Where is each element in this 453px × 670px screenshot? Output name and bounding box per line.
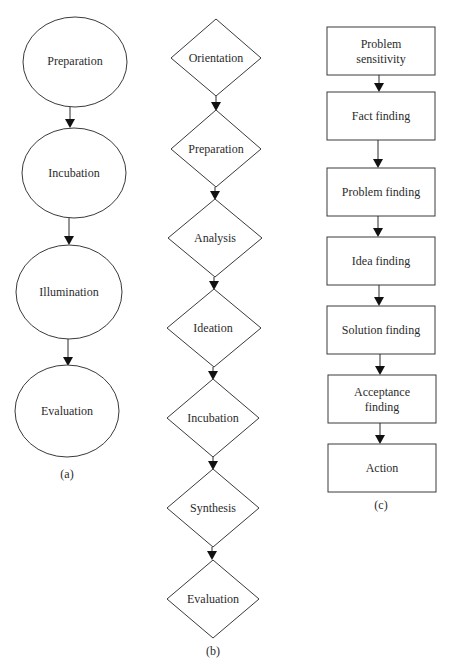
- node-c-problem-finding: Problem finding: [327, 168, 435, 216]
- diagram-c: Problem sensitivity Fact finding Problem…: [327, 27, 436, 512]
- caption-a: (a): [60, 467, 73, 481]
- node-b-analysis: Analysis: [168, 199, 262, 277]
- caption-c: (c): [374, 498, 387, 512]
- arrow-a-1: [65, 107, 75, 128]
- node-b-incubation: Incubation: [167, 379, 259, 457]
- arrow-c-1: [374, 75, 384, 92]
- node-label: Preparation: [188, 142, 243, 156]
- arrow-c-6: [375, 423, 385, 444]
- node-b-orientation: Orientation: [171, 19, 261, 96]
- node-label: Action: [366, 461, 399, 475]
- arrow-c-3: [373, 216, 383, 237]
- arrow-down-icon: [65, 119, 75, 128]
- arrow-b-1: [211, 96, 221, 111]
- node-label: Analysis: [194, 231, 236, 245]
- creative-process-diagrams: Preparation Incubation Illumination Eval…: [0, 0, 453, 670]
- node-c-fact-finding: Fact finding: [327, 92, 435, 140]
- arrow-c-2: [373, 140, 383, 168]
- node-label: Synthesis: [190, 501, 236, 515]
- node-a-incubation: Incubation: [22, 128, 126, 218]
- arrow-down-icon: [64, 236, 74, 245]
- node-label: Preparation: [47, 54, 102, 68]
- node-c-action: Action: [328, 444, 436, 492]
- arrow-down-icon: [373, 228, 383, 237]
- node-label-line1: Problem: [361, 37, 402, 51]
- arrow-down-icon: [374, 297, 384, 306]
- node-label: Incubation: [48, 166, 99, 180]
- node-label-line2: sensitivity: [356, 52, 405, 66]
- node-label: Problem finding: [342, 185, 420, 199]
- node-a-illumination: Illumination: [16, 245, 122, 339]
- node-label: Idea finding: [352, 254, 410, 268]
- node-c-problem-sensitivity: Problem sensitivity: [327, 27, 435, 75]
- arrow-b-2: [210, 187, 220, 200]
- arrow-down-icon: [374, 83, 384, 92]
- node-label: Incubation: [187, 411, 238, 425]
- node-a-preparation: Preparation: [23, 17, 127, 107]
- arrow-c-4: [374, 285, 384, 306]
- node-c-acceptance-finding: Acceptance finding: [328, 375, 436, 423]
- node-b-ideation: Ideation: [167, 289, 261, 367]
- node-c-idea-finding: Idea finding: [327, 237, 435, 285]
- node-label: Fact finding: [352, 109, 410, 123]
- node-label: Ideation: [193, 321, 232, 335]
- node-c-solution-finding: Solution finding: [327, 306, 435, 354]
- caption-b: (b): [206, 644, 220, 658]
- node-label-line1: Acceptance: [354, 385, 410, 399]
- node-label: Evaluation: [187, 592, 239, 606]
- arrow-b-4: [208, 367, 218, 380]
- node-label-line2: finding: [365, 400, 400, 414]
- node-label: Orientation: [189, 51, 244, 65]
- node-label: Illumination: [39, 285, 98, 299]
- arrow-c-5: [375, 354, 385, 375]
- node-a-evaluation: Evaluation: [15, 365, 119, 457]
- diagram-b: Orientation Preparation Analysis Ideatio…: [167, 19, 262, 658]
- node-label: Evaluation: [41, 404, 93, 418]
- node-b-evaluation: Evaluation: [167, 560, 259, 638]
- node-b-preparation: Preparation: [171, 110, 261, 187]
- arrow-down-icon: [207, 551, 217, 560]
- node-b-synthesis: Synthesis: [167, 469, 259, 547]
- node-label: Solution finding: [342, 323, 420, 337]
- arrow-b-5: [208, 457, 218, 470]
- arrow-down-icon: [373, 159, 383, 168]
- diagram-a: Preparation Incubation Illumination Eval…: [15, 17, 127, 481]
- arrow-a-2: [64, 218, 74, 245]
- arrow-b-3: [209, 277, 219, 290]
- arrow-down-icon: [375, 366, 385, 375]
- arrow-a-3: [63, 339, 73, 366]
- arrow-down-icon: [375, 435, 385, 444]
- arrow-b-6: [207, 547, 217, 560]
